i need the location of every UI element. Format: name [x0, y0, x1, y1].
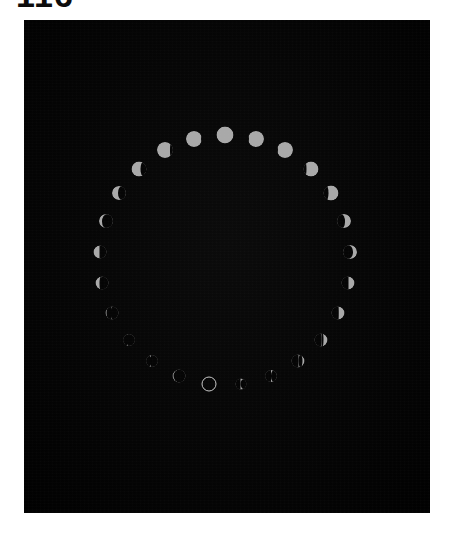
moon-shadow-half [128, 334, 134, 346]
moon-phase [332, 307, 345, 320]
moon-phase [265, 370, 277, 382]
moon-phase [217, 127, 234, 144]
moon-shadow-area [337, 214, 345, 228]
moon-phase [235, 379, 246, 390]
moon-disc [157, 142, 173, 158]
moon-disc [337, 214, 351, 228]
moon-lit-area [277, 142, 293, 158]
moon-shadow-area [99, 277, 102, 290]
moon-shadow-area [170, 142, 173, 158]
moon-shadow-area [174, 370, 186, 383]
moon-phase [94, 246, 107, 259]
photographic-plate [24, 20, 430, 513]
moon-disc [96, 277, 109, 290]
moon-shadow-half [341, 277, 348, 290]
moon-lit-area [217, 127, 234, 144]
moon-disc [303, 161, 318, 176]
moon-shadow-area [240, 379, 246, 390]
moon-disc [315, 333, 328, 346]
moon-disc [332, 307, 345, 320]
moon-disc [343, 245, 357, 259]
moon-disc [105, 307, 118, 320]
moon-phase [292, 355, 305, 368]
moon-disc [248, 131, 264, 147]
moon-disc [94, 246, 107, 259]
moon-shadow-area [201, 131, 202, 147]
moon-phase [202, 377, 217, 392]
moon-disc [217, 127, 234, 144]
moon-shadow-area [141, 161, 147, 176]
moon-phase [99, 214, 113, 228]
moon-shadow-area [106, 307, 112, 320]
moon-phase [315, 333, 328, 346]
moon-phase [343, 245, 357, 259]
moon-phase [132, 161, 147, 176]
moon-shadow-area [118, 186, 126, 200]
moon-disc [323, 186, 338, 201]
moon-disc [202, 377, 217, 392]
moon-disc [132, 161, 147, 176]
moon-disc [292, 355, 305, 368]
moon-shadow-area [271, 370, 277, 382]
moon-phase [303, 161, 318, 176]
moon-shadow-area [303, 161, 306, 176]
moon-phase [337, 214, 351, 228]
moon-disc [146, 355, 158, 367]
moon-lit-area [186, 131, 202, 147]
moon-phase [341, 277, 354, 290]
moon-disc [123, 334, 135, 346]
moon-shadow-half [151, 355, 157, 367]
moon-lit-area [248, 131, 264, 147]
moon-shadow-half [112, 307, 119, 320]
moon-phase [96, 277, 109, 290]
moon-phase [112, 186, 126, 200]
moon-phase [323, 186, 338, 201]
moon-phase [186, 131, 202, 147]
moon-phase [105, 307, 118, 320]
lunar-phase-ring [24, 20, 430, 513]
moon-phase [277, 142, 293, 158]
moon-phase [157, 142, 173, 158]
moon-disc [341, 277, 354, 290]
moon-disc [277, 142, 293, 158]
figure-number: 116 [16, 0, 74, 12]
moon-shadow-half [100, 246, 107, 259]
moon-phase [123, 334, 135, 346]
moon-disc [235, 379, 246, 390]
moon-disc [186, 131, 202, 147]
moon-disc [112, 186, 126, 200]
moon-disc [99, 214, 113, 228]
moon-shadow-half [102, 277, 109, 290]
moon-shadow-area [343, 245, 354, 259]
moon-phase [146, 355, 158, 367]
moon-phase [172, 370, 185, 383]
moon-disc [265, 370, 277, 382]
moon-disc [172, 370, 185, 383]
moon-shadow-area [102, 214, 113, 228]
moon-phase [248, 131, 264, 147]
